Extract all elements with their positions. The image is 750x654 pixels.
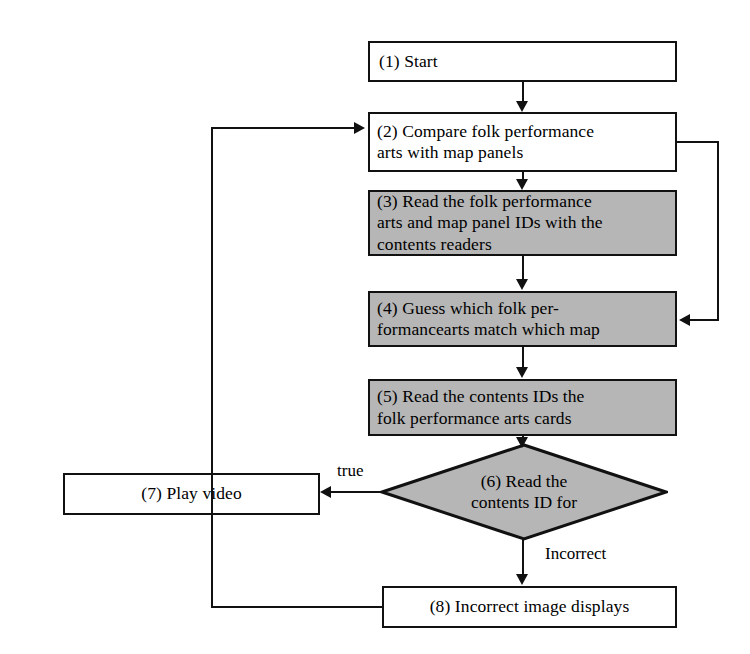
edge-return-to-2-top [211,127,355,129]
flow-node-8-incorrect-image[interactable]: (8) Incorrect image displays [382,586,677,628]
flow-node-1-start[interactable]: (1) Start [368,41,677,82]
flow-node-2-compare[interactable]: (2) Compare folk performance arts with m… [368,112,677,172]
flow-node-4-guess-match[interactable]: (4) Guess which folk per- formancearts m… [368,291,677,347]
edge-2-to-4-loop-bottom [690,319,719,321]
flow-node-5-read-contents-ids[interactable]: (5) Read the contents IDs the folk perfo… [368,379,677,436]
edge-return-to-2-arrowhead [354,122,365,134]
edge-3-to-4-arrowhead [516,279,528,290]
flow-node-5-label: (5) Read the contents IDs the folk perfo… [370,386,675,429]
edge-1-to-2 [522,82,524,103]
flow-node-3-label: (3) Read the folk performance arts and m… [370,191,675,255]
diamond-shape-icon [380,443,668,541]
flow-node-3-read-ids[interactable]: (3) Read the folk performance arts and m… [368,190,677,256]
edge-return-to-2-vertical [211,127,213,608]
edge-2-to-4-loop-right [717,141,719,321]
flow-node-2-label: (2) Compare folk performance arts with m… [370,121,675,164]
edge-4-to-5 [522,347,524,368]
flowchart-canvas: (1) Start (2) Compare folk performance a… [0,0,750,654]
edge-8-to-return-loop [211,606,383,608]
edge-6-to-8 [522,540,524,576]
edge-6-to-7 [331,491,383,493]
edge-3-to-4 [522,256,524,280]
flow-node-7-label: (7) Play video [65,483,318,504]
flow-node-1-label: (1) Start [370,51,675,72]
flow-node-7-play-video[interactable]: (7) Play video [63,473,320,515]
edge-6-to-7-arrowhead [320,486,331,498]
edge-6-to-8-arrowhead [516,574,528,585]
edge-2-to-3-arrowhead [516,179,528,190]
flow-node-8-label: (8) Incorrect image displays [384,596,675,617]
edge-2-to-4-loop-arrowhead [679,314,690,326]
flow-node-4-label: (4) Guess which folk per- formancearts m… [370,298,675,341]
edge-label-true: true [337,462,363,479]
flow-node-6-decision[interactable]: (6) Read the contents ID for [380,443,668,541]
edge-label-incorrect: Incorrect [545,545,606,562]
edge-2-to-4-loop-top [677,141,719,143]
edge-5-to-6-arrowhead [516,437,528,448]
edge-1-to-2-arrowhead [516,101,528,112]
edge-4-to-5-arrowhead [516,367,528,378]
